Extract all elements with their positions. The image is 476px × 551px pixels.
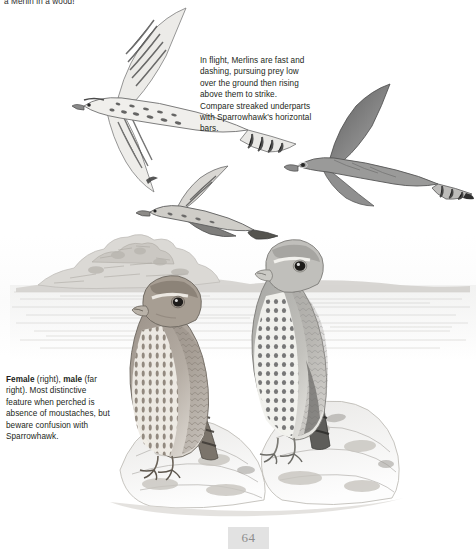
perched-caption: Female (right), male (far right). Most d… [6, 374, 114, 442]
merlin-stooping [136, 166, 278, 239]
background-scene [0, 235, 476, 360]
page-number: 64 [228, 527, 269, 549]
perched-male-merlin [252, 240, 330, 464]
perched-caption-plain-1: (right), [35, 375, 64, 384]
perched-caption-rest: (far right). Most distinctive feature wh… [6, 375, 110, 441]
merlin-in-flight-upperside [284, 84, 474, 206]
perched-caption-bold-male: male [63, 375, 82, 384]
flight-caption: In flight, Merlins are fast and dashing,… [200, 55, 312, 135]
perched-caption-bold-female: Female [6, 375, 35, 384]
field-guide-page: a Merlin in a wood! [0, 0, 476, 551]
